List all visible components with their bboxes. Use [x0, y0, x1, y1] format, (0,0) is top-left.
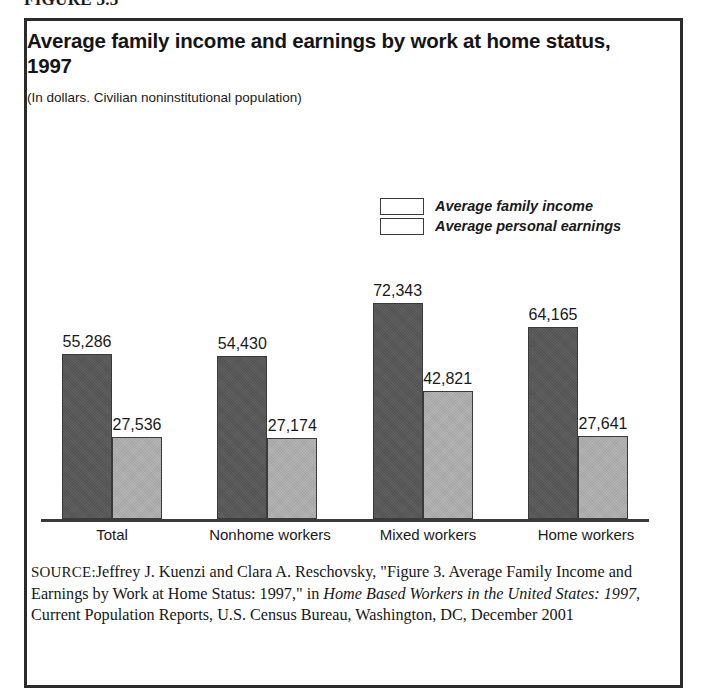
bar-wrapper: 27,641 — [578, 250, 628, 519]
bar — [528, 327, 578, 519]
chart-header: Average family income and earnings by wo… — [27, 28, 627, 106]
bar-wrapper: 42,821 — [423, 250, 473, 519]
bar-value-label: 55,286 — [63, 333, 112, 351]
bar-value-label: 72,343 — [373, 282, 422, 300]
category-label: Mixed workers — [357, 526, 499, 543]
legend-item-earnings: Average personal earnings — [380, 216, 680, 236]
bar — [267, 438, 317, 519]
bar-wrapper: 27,536 — [112, 250, 162, 519]
chart-subtitle: (In dollars. Civilian noninstitutional p… — [27, 90, 627, 106]
bar — [373, 303, 423, 519]
legend-swatch-earnings — [380, 218, 424, 235]
legend-swatch-income — [380, 198, 424, 215]
bar-wrapper: 54,430 — [217, 250, 267, 519]
category-label: Total — [41, 526, 183, 543]
bar-value-label: 54,430 — [218, 335, 267, 353]
chart-legend: Average family income Average personal e… — [380, 196, 680, 236]
bar-group: 55,28627,536 — [41, 250, 183, 519]
bar-wrapper: 27,174 — [267, 250, 317, 519]
bar — [112, 437, 162, 519]
bar-group: 72,34342,821 — [352, 250, 494, 519]
bar-wrapper: 72,343 — [373, 250, 423, 519]
figure-number: FIGURE 3.3 — [24, 0, 119, 8]
legend-label-earnings: Average personal earnings — [435, 218, 621, 234]
source-note: SOURCE:Jeffrey J. Kuenzi and Clara A. Re… — [31, 562, 649, 627]
bar — [578, 436, 628, 519]
bar-group: 54,43027,174 — [196, 250, 338, 519]
bar-value-label: 27,174 — [268, 417, 317, 435]
x-axis-category-labels: TotalNonhome workersMixed workersHome wo… — [41, 526, 657, 543]
source-label: SOURCE: — [31, 564, 96, 580]
source-text-italic: Home Based Workers in the United States:… — [323, 585, 636, 603]
bar-group: 64,16527,641 — [507, 250, 649, 519]
bar-chart-plot-area: 55,28627,53654,43027,17472,34342,82164,1… — [27, 250, 657, 522]
bar-wrapper: 64,165 — [528, 250, 578, 519]
bar-value-label: 27,536 — [113, 416, 162, 434]
bar-value-label: 27,641 — [579, 415, 628, 433]
page-title: Average family income and earnings by wo… — [27, 28, 627, 78]
bar — [217, 356, 267, 519]
category-label: Nonhome workers — [199, 526, 341, 543]
legend-label-income: Average family income — [435, 198, 593, 214]
category-label: Home workers — [515, 526, 657, 543]
bar-value-label: 64,165 — [529, 306, 578, 324]
bar — [62, 354, 112, 519]
bar-value-label: 42,821 — [423, 370, 472, 388]
bar — [423, 391, 473, 519]
legend-item-income: Average family income — [380, 196, 680, 216]
x-axis-line — [41, 519, 649, 522]
bar-wrapper: 55,286 — [62, 250, 112, 519]
bar-groups: 55,28627,53654,43027,17472,34342,82164,1… — [41, 250, 649, 519]
